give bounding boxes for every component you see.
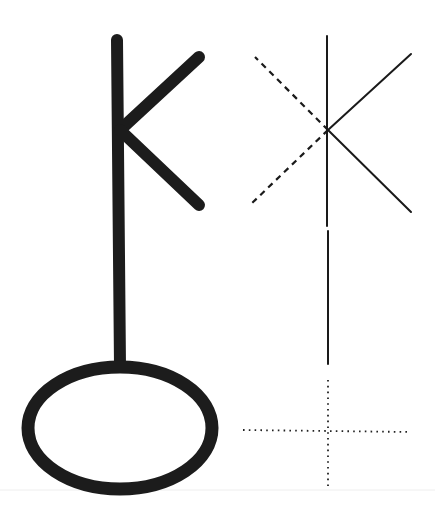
- rune-stem: [117, 40, 120, 366]
- rune-lower-arm: [120, 130, 199, 205]
- construction-solid-arm-up: [328, 54, 411, 130]
- rune-diagram-canvas: [0, 0, 435, 526]
- construction-dashed-arm-down: [249, 130, 328, 206]
- rune-oval-loop: [28, 367, 212, 489]
- construction-dashed-arm-up: [255, 57, 328, 130]
- construction-solid-arm-down: [328, 130, 411, 212]
- rune-upper-arm: [120, 57, 199, 130]
- dotted-crosshair-horizontal: [243, 430, 411, 432]
- thick-rune-glyph: [28, 40, 212, 489]
- construction-diagram: [243, 36, 411, 488]
